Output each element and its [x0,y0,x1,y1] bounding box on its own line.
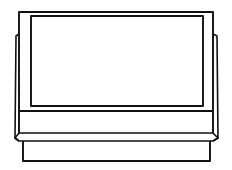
tv-screen [31,16,203,106]
tv-stand [23,141,210,161]
base-shelf [15,133,218,141]
tv-cabinet [19,12,213,133]
tv-icon [0,0,232,170]
